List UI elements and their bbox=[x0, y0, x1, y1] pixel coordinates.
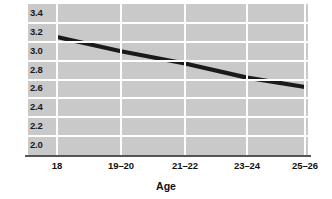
horizontal-gridline bbox=[28, 135, 308, 137]
y-axis-tick-label: 3.4 bbox=[30, 8, 43, 18]
caption-sliver bbox=[8, 194, 118, 199]
x-axis-tick-label: 19–20 bbox=[108, 160, 134, 171]
horizontal-gridline bbox=[28, 79, 308, 81]
horizontal-gridline bbox=[28, 116, 308, 118]
x-axis-line bbox=[25, 155, 311, 157]
vertical-gridline bbox=[120, 4, 122, 155]
y-axis-tick-label: 2.2 bbox=[30, 121, 43, 131]
figure-risk-taking-by-age: Risk-taking score 3.43.23.02.82.62.42.22… bbox=[0, 0, 332, 199]
x-axis-tick-label: 23–24 bbox=[234, 160, 260, 171]
vertical-gridline bbox=[246, 4, 248, 155]
y-axis-tick-label: 2.4 bbox=[30, 102, 43, 112]
x-axis-tick-label: 25–26 bbox=[292, 160, 318, 171]
horizontal-gridline bbox=[28, 60, 308, 62]
y-axis-tick-label: 2.0 bbox=[30, 140, 43, 150]
vertical-gridline bbox=[304, 4, 306, 155]
y-axis-tick-label: 2.6 bbox=[30, 83, 43, 93]
x-axis-tick-label: 18 bbox=[52, 160, 62, 171]
y-axis-tick-label: 3.2 bbox=[30, 27, 43, 37]
vertical-gridline bbox=[184, 4, 186, 155]
horizontal-gridline bbox=[28, 22, 308, 24]
horizontal-gridline bbox=[28, 41, 308, 43]
y-axis-tick-label: 3.0 bbox=[30, 46, 43, 56]
plot-area: 3.43.23.02.82.62.42.22.0 bbox=[28, 4, 308, 155]
vertical-gridline bbox=[56, 4, 58, 155]
horizontal-gridline bbox=[28, 97, 308, 99]
y-axis-tick-label: 2.8 bbox=[30, 65, 43, 75]
x-axis-tick-label: 21–22 bbox=[172, 160, 198, 171]
x-axis-title: Age bbox=[0, 180, 332, 192]
